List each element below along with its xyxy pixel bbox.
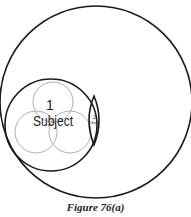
subject-label: Subject — [33, 114, 73, 130]
venn-diagram: 1 Subject 2 Object — [0, 0, 191, 217]
subject-number: 1 — [46, 97, 54, 113]
object-label: Object — [90, 121, 99, 125]
object-number: 2 — [93, 114, 96, 120]
figure-caption: Figure 76(a) — [0, 201, 191, 213]
